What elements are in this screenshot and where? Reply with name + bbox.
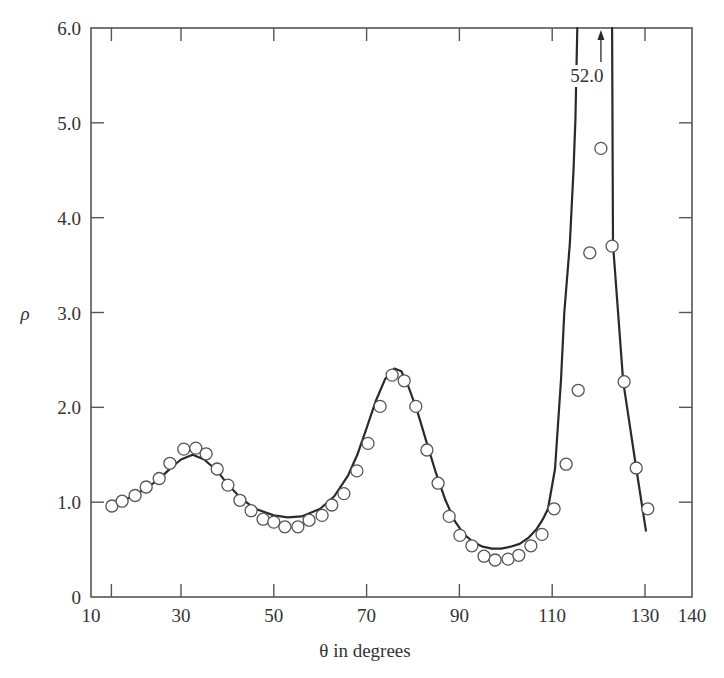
data-point-marker: [374, 400, 386, 412]
x-tick-label: 10: [82, 605, 101, 626]
y-tick-label: 1.0: [57, 492, 81, 513]
data-point-marker: [326, 499, 338, 511]
data-point-marker: [140, 481, 152, 493]
data-point-marker: [421, 444, 433, 456]
data-point-marker: [303, 514, 315, 526]
data-point-marker: [560, 458, 572, 470]
data-point-marker: [164, 457, 176, 469]
data-point-marker: [279, 521, 291, 533]
data-point-marker: [316, 509, 328, 521]
data-point-marker: [525, 540, 537, 552]
y-axis-title: ρ: [19, 303, 29, 324]
data-point-marker: [398, 375, 410, 387]
x-tick-label: 140: [678, 605, 707, 626]
y-tick-label: 4.0: [57, 208, 81, 229]
data-point-marker: [268, 516, 280, 528]
x-axis-title: θ in degrees: [319, 640, 410, 661]
data-point-marker: [595, 142, 607, 154]
data-point-marker: [153, 473, 165, 485]
data-point-marker: [606, 240, 618, 252]
data-point-marker: [618, 376, 630, 388]
x-tick-label: 110: [538, 605, 566, 626]
data-point-marker: [211, 463, 223, 475]
data-point-marker: [536, 528, 548, 540]
data-point-marker: [466, 540, 478, 552]
data-point-marker: [386, 369, 398, 381]
y-tick-label: 3.0: [57, 303, 81, 324]
y-tick-label: 5.0: [57, 113, 81, 134]
data-point-marker: [116, 495, 128, 507]
x-axis-tick-labels: 1030507090110130140: [82, 605, 707, 626]
data-point-marker: [443, 510, 455, 522]
data-point-marker: [351, 465, 363, 477]
up-arrow-icon: [597, 30, 604, 40]
y-tick-label: 6.0: [57, 18, 81, 39]
data-point-marker: [410, 400, 422, 412]
data-point-marker: [338, 488, 350, 500]
data-point-marker: [630, 462, 642, 474]
data-point-marker: [489, 554, 501, 566]
data-point-marker: [642, 503, 654, 515]
data-point-marker: [129, 490, 141, 502]
chart: 1030507090110130140 01.02.03.04.05.06.0 …: [0, 0, 724, 678]
data-point-marker: [513, 549, 525, 561]
x-tick-label: 50: [264, 605, 283, 626]
theory-curve-segment: [112, 28, 577, 549]
data-point-marker: [548, 503, 560, 515]
data-point-marker: [454, 529, 466, 541]
data-point-marker: [362, 437, 374, 449]
data-point-marker: [432, 477, 444, 489]
data-point-marker: [292, 521, 304, 533]
data-point-marker: [572, 384, 584, 396]
y-tick-label: 0: [72, 587, 82, 608]
peak-value-label: 52.0: [570, 65, 603, 86]
data-point-marker: [234, 494, 246, 506]
x-tick-label: 130: [631, 605, 660, 626]
data-point-marker: [200, 448, 212, 460]
y-axis-tick-labels: 01.02.03.04.05.06.0: [57, 18, 81, 608]
data-point-marker: [478, 550, 490, 562]
annotations: 52.0: [565, 30, 609, 87]
plot-border: [91, 28, 692, 597]
x-tick-label: 30: [172, 605, 191, 626]
data-point-marker: [584, 247, 596, 259]
theory-curve-segment: [612, 28, 646, 531]
y-tick-label: 2.0: [57, 397, 81, 418]
plot-frame: [91, 28, 692, 597]
data-point-marker: [222, 479, 234, 491]
x-tick-label: 90: [450, 605, 469, 626]
x-tick-label: 70: [357, 605, 376, 626]
data-point-marker: [178, 443, 190, 455]
data-point-marker: [245, 505, 257, 517]
